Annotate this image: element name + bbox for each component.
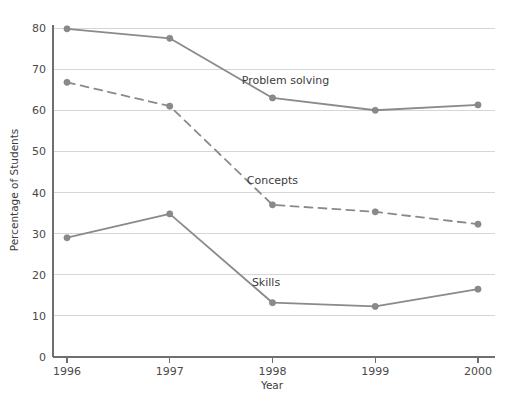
line-chart: 01020304050607080 19961997199819992000 P…	[0, 0, 511, 411]
y-tick-label: 20	[32, 269, 46, 282]
data-point-marker	[475, 221, 481, 227]
series-label-problem-solving: Problem solving	[242, 74, 330, 87]
data-point-marker	[167, 211, 173, 217]
x-tick-label: 1998	[259, 365, 287, 378]
gridlines-group	[53, 28, 495, 316]
data-point-marker	[372, 209, 378, 215]
x-tick-label: 1996	[53, 365, 81, 378]
data-point-marker	[64, 26, 70, 32]
data-point-marker	[475, 102, 481, 108]
y-tick-label: 10	[32, 310, 46, 323]
data-point-marker	[64, 79, 70, 85]
ticks-group	[67, 357, 478, 363]
y-tick-label: 70	[32, 63, 46, 76]
y-tick-labels-group: 01020304050607080	[32, 22, 46, 364]
x-tick-labels-group: 19961997199819992000	[53, 365, 492, 378]
data-point-marker	[372, 303, 378, 309]
y-tick-label: 30	[32, 228, 46, 241]
y-tick-label: 40	[32, 187, 46, 200]
markers-group	[64, 26, 481, 310]
y-axis-title: Percentage of Students	[8, 129, 20, 252]
series-group	[67, 29, 478, 307]
data-point-marker	[64, 235, 70, 241]
data-point-marker	[475, 286, 481, 292]
data-point-marker	[167, 35, 173, 41]
x-axis-title: Year	[260, 379, 284, 391]
series-labels-group: Problem solvingConceptsSkills	[242, 74, 330, 289]
y-tick-label: 80	[32, 22, 46, 35]
data-point-marker	[269, 95, 275, 101]
data-point-marker	[269, 300, 275, 306]
data-point-marker	[269, 202, 275, 208]
x-tick-label: 2000	[464, 365, 492, 378]
y-tick-label: 60	[32, 104, 46, 117]
data-point-marker	[167, 103, 173, 109]
chart-canvas: 01020304050607080 19961997199819992000 P…	[0, 0, 511, 411]
series-label-concepts: Concepts	[247, 174, 298, 187]
series-line-skills	[67, 214, 478, 307]
series-label-skills: Skills	[252, 276, 281, 289]
x-tick-label: 1999	[361, 365, 389, 378]
y-tick-label: 50	[32, 145, 46, 158]
y-tick-label: 0	[39, 351, 46, 364]
x-tick-label: 1997	[156, 365, 184, 378]
data-point-marker	[372, 107, 378, 113]
